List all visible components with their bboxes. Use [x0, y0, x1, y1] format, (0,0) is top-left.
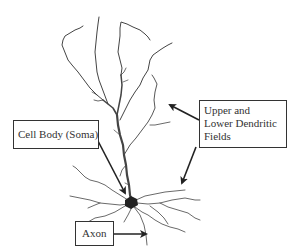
label-dendrites-line-1: Upper and — [204, 104, 282, 117]
label-dendritic-fields: Upper and Lower Dendritic Fields — [199, 100, 287, 148]
label-cell-body-text: Cell Body (Soma) — [18, 128, 98, 140]
pointer-arrows — [98, 105, 199, 234]
apical-dendrite-tree — [62, 17, 172, 203]
dendrite-arrow-upper — [170, 105, 199, 120]
label-axon: Axon — [75, 221, 114, 246]
dendrite-arrow-lower — [182, 147, 196, 183]
label-dendrites-line-3: Fields — [204, 130, 282, 143]
soma-arrow — [98, 141, 125, 193]
label-dendrites-line-2: Lower Dendritic — [204, 117, 282, 130]
label-axon-text: Axon — [82, 227, 106, 239]
soma-body — [125, 196, 138, 209]
label-cell-body: Cell Body (Soma) — [13, 120, 99, 149]
